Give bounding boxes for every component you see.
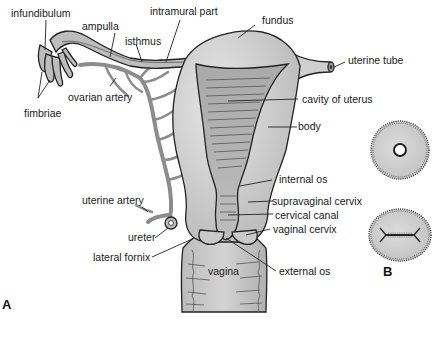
label-ovarian-artery: ovarian artery [68, 91, 133, 103]
panel-a: infundibulum ampulla intramural part fun… [2, 5, 404, 312]
cervix-os-parous [369, 209, 431, 261]
panel-label-a: A [2, 297, 12, 312]
label-ureter: ureter [128, 231, 156, 243]
label-isthmus: isthmus [125, 35, 161, 47]
label-body: body [298, 120, 322, 132]
label-uterine-tube: uterine tube [348, 54, 404, 66]
label-external-os: external os [279, 265, 330, 277]
label-ampulla: ampulla [82, 20, 119, 32]
panel-label-b: B [383, 264, 392, 279]
label-vaginal-cervix: vaginal cervix [273, 223, 337, 235]
label-cervical-canal: cervical canal [275, 209, 339, 221]
label-fundus: fundus [262, 14, 294, 26]
fimbriae-shape [39, 45, 77, 86]
panel-b: B [369, 121, 431, 279]
label-cavity-of-uterus: cavity of uterus [302, 93, 373, 105]
label-vagina: vagina [208, 265, 239, 277]
uterus-anatomy-diagram: infundibulum ampulla intramural part fun… [0, 0, 445, 343]
label-internal-os: internal os [279, 173, 327, 185]
label-supravaginal-cervix: supravaginal cervix [272, 195, 363, 207]
label-uterine-artery: uterine artery [82, 194, 145, 206]
ureter-shape [165, 217, 177, 229]
label-lateral-fornix: lateral fornix [93, 251, 151, 263]
cervix-os-nulliparous [371, 121, 429, 179]
label-infundibulum: infundibulum [11, 7, 71, 19]
label-fimbriae: fimbriae [24, 107, 62, 119]
label-intramural-part: intramural part [150, 5, 218, 17]
